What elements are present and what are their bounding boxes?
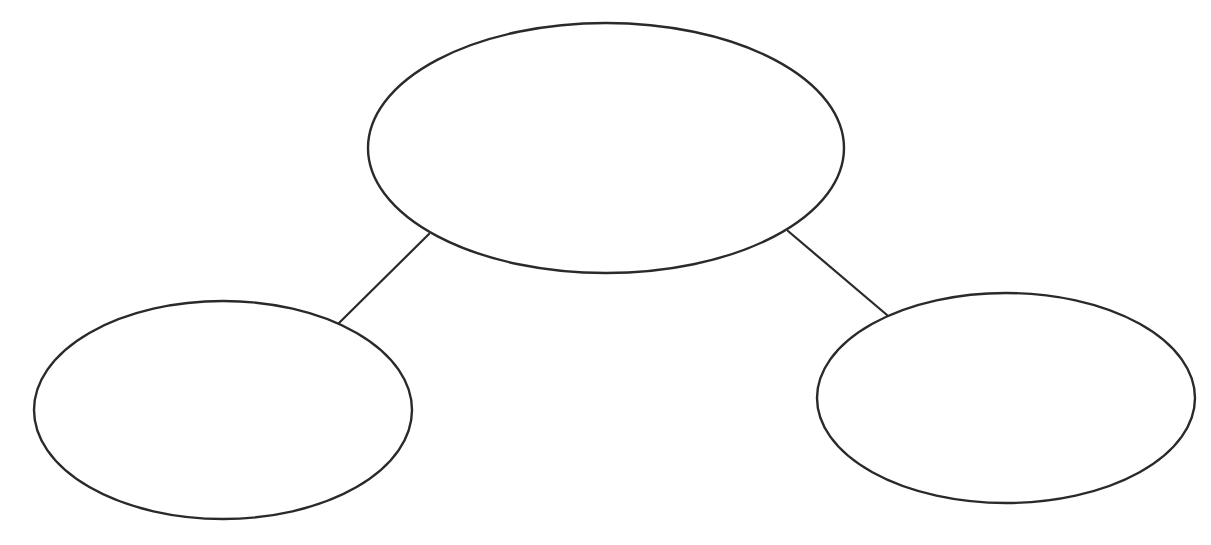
connector-top-to-bottom-right [788, 231, 887, 315]
connector-top-to-bottom-left [339, 234, 429, 323]
node-bottom-left-ellipse[interactable] [34, 301, 412, 519]
node-bottom-right-ellipse[interactable] [817, 293, 1195, 503]
node-top-ellipse[interactable] [368, 23, 844, 273]
diagram-canvas [0, 0, 1211, 545]
tree-diagram [0, 0, 1211, 545]
